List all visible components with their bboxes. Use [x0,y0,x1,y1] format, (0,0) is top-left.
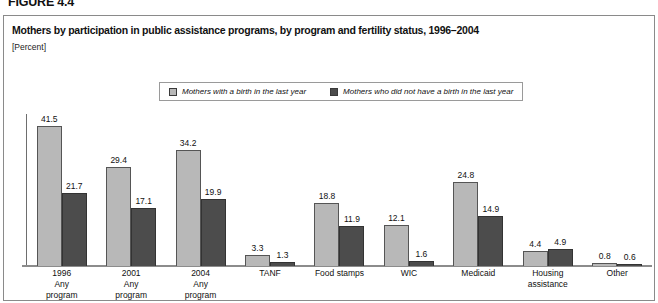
bar-rect [62,193,87,266]
bar-no-birth[interactable]: 14.9 [478,96,503,266]
legend-item-no-birth: Mothers who did not have a birth in the … [330,87,513,96]
bar-rect [478,216,503,266]
bar-birth[interactable]: 3.3 [245,96,270,266]
bar-rect [201,199,226,266]
bar-birth[interactable]: 12.1 [384,96,409,266]
bar-rect [409,261,434,266]
bar-value-label: 4.4 [529,239,541,249]
bar-group: 0.80.6 [583,96,652,266]
bar-no-birth[interactable]: 1.3 [270,96,295,266]
tick-label-line: 1996 [27,268,96,279]
figure-number: FIGURE 4.4 [8,0,74,9]
x-axis-tick-label: 2001Anyprogram [96,268,165,301]
tick-label-line: program [96,290,165,301]
tick-label-line: Medicaid [444,268,513,279]
bar-birth[interactable]: 0.8 [592,96,617,266]
bar-groups: 41.521.729.417.134.219.93.31.318.811.912… [27,96,652,266]
bar-group: 24.814.9 [444,96,513,266]
bar-value-label: 0.6 [624,252,636,262]
tick-label-line: 2004 [166,268,235,279]
bar-value-label: 21.7 [66,181,83,191]
bar-rect [106,167,131,266]
bar-value-label: 0.8 [599,251,611,261]
bar-group: 12.11.6 [374,96,443,266]
dark-gray-square-icon [330,88,338,96]
bar-no-birth[interactable]: 11.9 [339,96,364,266]
bar-value-label: 3.3 [252,243,264,253]
bar-birth[interactable]: 34.2 [176,96,201,266]
tick-label-line: program [27,290,96,301]
bar-value-label: 1.6 [415,249,427,259]
page-title: Mothers by participation in public assis… [12,24,479,36]
bar-rect [523,251,548,266]
tick-label-line: assistance [513,279,582,290]
bar-birth[interactable]: 29.4 [106,96,131,266]
tick-label-line: 2001 [96,268,165,279]
x-axis-tick-label: Food stamps [305,268,374,301]
bar-rect [270,262,295,266]
bar-no-birth[interactable]: 19.9 [201,96,226,266]
tick-label-line: Any [27,279,96,290]
bar-no-birth[interactable]: 21.7 [62,96,87,266]
bar-group: 29.417.1 [96,96,165,266]
tick-label-line: Food stamps [305,268,374,279]
tick-label-line: Any [96,279,165,290]
bar-birth[interactable]: 18.8 [314,96,339,266]
units-label: [Percent] [12,42,46,52]
legend-label: Mothers who did not have a birth in the … [343,87,513,96]
x-axis-tick-label: Housingassistance [513,268,582,301]
bar-birth[interactable]: 41.5 [37,96,62,266]
bar-value-label: 14.9 [483,204,500,214]
legend-item-birth: Mothers with a birth in the last year [169,87,306,96]
bar-rect [176,150,201,266]
bar-group: 34.219.9 [166,96,235,266]
legend-label: Mothers with a birth in the last year [182,87,306,96]
bar-rect [314,203,339,267]
bar-value-label: 11.9 [344,214,360,224]
bar-group: 41.521.7 [27,96,96,266]
x-axis-tick-label: 2004Anyprogram [166,268,235,301]
bar-no-birth[interactable]: 4.9 [548,96,573,266]
bar-value-label: 12.1 [388,213,405,223]
bar-group: 3.31.3 [235,96,304,266]
bar-birth[interactable]: 4.4 [523,96,548,266]
bar-value-label: 17.1 [135,196,152,206]
bar-group: 4.44.9 [513,96,582,266]
bar-value-label: 19.9 [205,187,222,197]
tick-label-line: TANF [235,268,304,279]
bar-value-label: 24.8 [458,170,475,180]
bar-group: 18.811.9 [305,96,374,266]
bar-value-label: 41.5 [41,114,58,124]
bar-rect [592,263,617,266]
x-axis-tick-label: Medicaid [444,268,513,301]
bar-rect [245,255,270,266]
bar-rect [617,264,642,266]
plot-area: 41.521.729.417.134.219.93.31.318.811.912… [8,96,652,266]
bar-birth[interactable]: 24.8 [453,96,478,266]
tick-label-line: program [166,290,235,301]
bar-rect [453,182,478,266]
x-axis-tick-label: WIC [374,268,443,301]
x-axis-tick-label: TANF [235,268,304,301]
bar-value-label: 29.4 [110,155,127,165]
x-axis-tick-label: Other [583,268,652,301]
tick-label-line: WIC [374,268,443,279]
bar-rect [37,126,62,266]
bar-no-birth[interactable]: 17.1 [131,96,156,266]
bar-no-birth[interactable]: 1.6 [409,96,434,266]
light-gray-square-icon [169,88,177,96]
bar-value-label: 4.9 [554,237,566,247]
tick-label-line: Any [166,279,235,290]
tick-label-line: Housing [513,268,582,279]
bar-value-label: 18.8 [319,191,336,201]
x-axis-category-labels: 1996Anyprogram2001Anyprogram2004Anyprogr… [27,268,652,301]
tick-label-line: Other [583,268,652,279]
bar-rect [384,225,409,266]
x-axis-tick-label: 1996Anyprogram [27,268,96,301]
bar-rect [339,226,364,266]
bar-no-birth[interactable]: 0.6 [617,96,642,266]
bar-rect [131,208,156,266]
bar-value-label: 34.2 [180,138,197,148]
figure-panel: Mothers by participation in public assis… [3,15,655,301]
bar-rect [548,249,573,266]
